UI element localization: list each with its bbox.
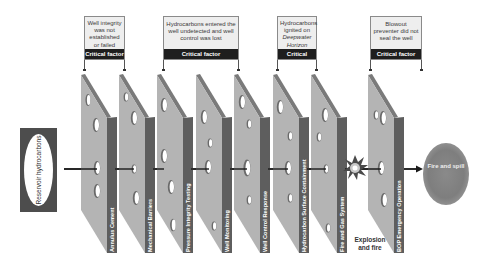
barrier-label-mechanical-barriers: Mechanical Barriers (147, 199, 153, 252)
arrowhead-icon (416, 166, 423, 173)
barrier-label-well-control-response: Well Control Response (262, 191, 268, 252)
barrier-label-annulus-cement: Annulus Cement (109, 207, 115, 252)
swiss-cheese-diagram: Well integrity was not established or fa… (0, 0, 488, 272)
barrier-label-pressure-integrity-testing: Pressure Integrity Testing (185, 183, 191, 252)
fire-and-spill-cloud: Fire and spill (423, 143, 469, 205)
barrier-label-hydrocarbon-surface-containment: Hydrocarbon Surface Containment (301, 159, 307, 252)
barrier-label-bop-emergency-operation: BOP Emergency Operation (396, 180, 402, 252)
fire-and-spill-label: Fire and spill (423, 162, 469, 170)
barrier-slabs: Annulus Cement Mechanical Barriers Press… (0, 0, 488, 272)
barrier-label-well-monitoring: Well Monitoring (224, 210, 230, 252)
explosion-label: Explosion and fire (350, 236, 390, 252)
barrier-label-fire-and-gas-system: Fire and Gas System (339, 197, 345, 252)
